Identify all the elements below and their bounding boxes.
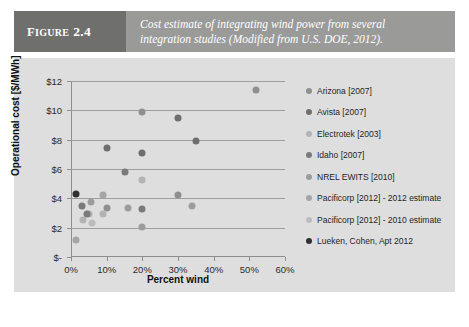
data-point — [175, 114, 182, 121]
legend-label: Pacificorp [2012] - 2010 estimate — [317, 215, 441, 225]
legend-item[interactable]: Pacificorp [2012] - 2010 estimate — [306, 209, 454, 231]
y-axis-tick-label: $4 — [14, 193, 62, 204]
x-axis-title: Percent wind — [71, 274, 285, 285]
figure-number-tag: FIGURE2.4 — [14, 11, 126, 52]
x-axis-tick — [214, 257, 215, 261]
legend-label: Arizona [2007] — [317, 86, 372, 96]
y-axis-tick-label: $10 — [14, 105, 62, 116]
x-axis-tick-label: 40% — [204, 264, 223, 275]
data-point — [100, 192, 107, 199]
figure-tag-text: FIGURE2.4 — [27, 24, 91, 40]
legend-marker-icon — [306, 217, 312, 223]
data-point — [125, 204, 132, 211]
legend-item[interactable]: Electrotek [2003] — [306, 123, 454, 145]
data-point — [139, 108, 146, 115]
chart-legend: Arizona [2007]Avista [2007]Electrotek [2… — [306, 80, 454, 252]
data-point — [139, 177, 146, 184]
y-axis-tick — [67, 110, 71, 111]
y-axis-tick — [67, 140, 71, 141]
data-point — [139, 223, 146, 230]
x-axis-tick — [107, 257, 108, 261]
caption-line-2: integration studies (Modified from U.S. … — [140, 32, 445, 47]
chart-panel: Operational cost [$/MWh] Percent wind $-… — [14, 58, 455, 292]
x-axis-tick-label: 30% — [168, 264, 187, 275]
legend-marker-icon — [306, 109, 312, 115]
y-axis-tick — [67, 198, 71, 199]
data-point — [89, 219, 96, 226]
legend-marker-icon — [306, 131, 312, 137]
x-axis-tick — [285, 257, 286, 261]
y-axis-tick — [67, 228, 71, 229]
legend-item[interactable]: Lueken, Cohen, Apt 2012 — [306, 231, 454, 253]
figure-caption-text: Cost estimate of integrating wind power … — [126, 11, 455, 52]
y-axis-tick — [67, 169, 71, 170]
legend-label: Electrotek [2003] — [317, 129, 381, 139]
legend-marker-icon — [306, 195, 312, 201]
legend-marker-icon — [306, 152, 312, 158]
caption-line-1: Cost estimate of integrating wind power … — [140, 17, 445, 32]
legend-label: NREL EWITS [2010] — [317, 172, 395, 182]
data-point — [139, 149, 146, 156]
legend-label: Idaho [2007] — [317, 150, 364, 160]
figure-tag-word: IGURE — [35, 27, 69, 38]
legend-label: Pacificorp [2012] - 2012 estimate — [317, 193, 441, 203]
data-point — [78, 202, 85, 209]
legend-label: Lueken, Cohen, Apt 2012 — [317, 236, 413, 246]
y-axis-tick — [67, 81, 71, 82]
data-point — [80, 217, 87, 224]
y-gridline — [71, 140, 285, 141]
y-gridline — [71, 110, 285, 111]
x-axis-tick-label: 60% — [275, 264, 294, 275]
legend-label: Avista [2007] — [317, 107, 366, 117]
x-axis-tick-label: 10% — [97, 264, 116, 275]
data-point — [103, 144, 110, 151]
y-axis-tick-label: $2 — [14, 222, 62, 233]
y-gridline — [71, 81, 285, 82]
legend-marker-icon — [306, 238, 312, 244]
figure-tag-number: 2.4 — [73, 24, 91, 39]
y-gridline — [71, 228, 285, 229]
data-point — [253, 86, 260, 93]
x-axis-tick — [71, 257, 72, 261]
y-axis-tick-label: $- — [14, 252, 62, 263]
legend-item[interactable]: NREL EWITS [2010] — [306, 166, 454, 188]
y-gridline — [71, 169, 285, 170]
legend-marker-icon — [306, 174, 312, 180]
data-point — [139, 206, 146, 213]
x-axis-tick-label: 20% — [133, 264, 152, 275]
legend-item[interactable]: Pacificorp [2012] - 2012 estimate — [306, 188, 454, 210]
legend-item[interactable]: Avista [2007] — [306, 102, 454, 124]
figure-caption-bar: FIGURE2.4 Cost estimate of integrating w… — [14, 11, 455, 52]
legend-marker-icon — [306, 88, 312, 94]
data-point — [73, 190, 80, 197]
figure-tag-prefix: F — [27, 25, 35, 39]
data-point — [121, 168, 128, 175]
figure-root: FIGURE2.4 Cost estimate of integrating w… — [0, 0, 469, 327]
legend-item[interactable]: Arizona [2007] — [306, 80, 454, 102]
data-point — [189, 203, 196, 210]
data-point — [87, 199, 94, 206]
y-axis-tick-label: $6 — [14, 164, 62, 175]
data-point — [73, 237, 80, 244]
y-axis-tick-label: $8 — [14, 134, 62, 145]
x-axis-tick — [249, 257, 250, 261]
data-point — [100, 211, 107, 218]
x-axis-tick-label: 50% — [240, 264, 259, 275]
x-axis-tick — [178, 257, 179, 261]
x-axis-tick-label: 0% — [64, 264, 78, 275]
data-point — [84, 210, 91, 217]
data-point — [192, 138, 199, 145]
legend-item[interactable]: Idaho [2007] — [306, 145, 454, 167]
scatter-plot-area — [71, 81, 285, 257]
data-point — [175, 191, 182, 198]
y-axis-tick-label: $12 — [14, 76, 62, 87]
x-axis-tick — [142, 257, 143, 261]
